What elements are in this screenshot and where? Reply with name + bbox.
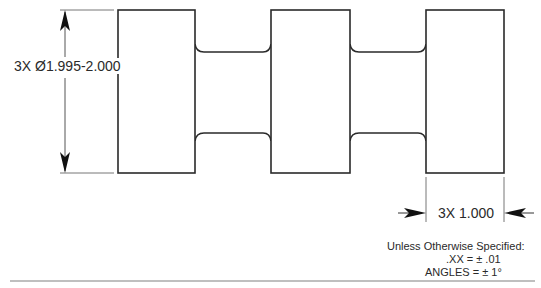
neck-2	[350, 44, 426, 141]
notes-line-2: .XX = ± .01	[446, 253, 501, 266]
width-dimension-label: 3X 1.000	[438, 205, 494, 221]
block-3	[426, 10, 504, 173]
block-1	[118, 10, 195, 173]
neck-1	[195, 44, 271, 141]
block-2	[271, 10, 350, 173]
notes-line-1: Unless Otherwise Specified:	[387, 240, 525, 253]
diameter-dimension-label: 3X Ø1.995-2.000	[12, 58, 123, 74]
notes-line-3: ANGLES = ± 1°	[425, 266, 502, 279]
